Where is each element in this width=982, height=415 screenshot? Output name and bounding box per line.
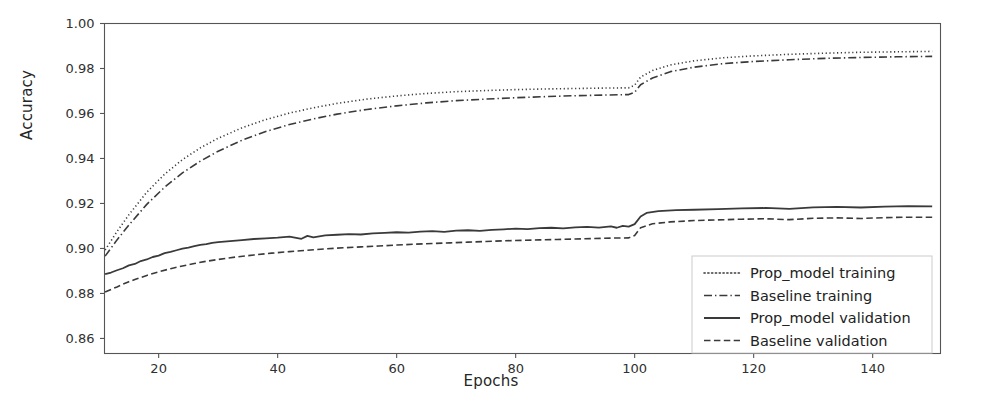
y-tick-label: 0.90 [66,241,95,256]
legend-label-1: Baseline training [750,288,872,304]
y-tick-label: 0.88 [66,286,95,301]
series-line-0 [105,51,932,250]
legend-label-2: Prop_model validation [750,310,911,326]
y-tick-label: 0.94 [66,151,95,166]
x-axis-label: Epochs [0,372,982,390]
legend-label-0: Prop_model training [750,265,895,281]
y-tick-label: 1.00 [66,16,95,31]
y-axis-label: Accuracy [18,70,36,140]
y-tick-label: 0.96 [66,106,95,121]
chart-legend: Prop_model trainingBaseline trainingProp… [692,256,932,353]
series-line-1 [105,56,932,256]
chart-canvas: 204060801001201400.860.880.900.920.940.9… [0,0,982,415]
y-tick-label: 0.92 [66,196,95,211]
y-tick-label: 0.86 [66,331,95,346]
accuracy-vs-epochs-chart: 204060801001201400.860.880.900.920.940.9… [0,0,982,415]
legend-label-3: Baseline validation [750,333,887,349]
y-tick-label: 0.98 [66,61,95,76]
